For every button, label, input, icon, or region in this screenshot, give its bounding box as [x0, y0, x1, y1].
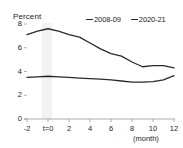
y-tick-label: 8 [10, 19, 22, 28]
x-tick-label: -2 [24, 124, 31, 133]
y-tick-label: 2 [10, 90, 22, 99]
y-tick-label: 0 [10, 114, 22, 123]
y-tick-label: 4 [10, 67, 22, 76]
x-tick-label: t=0 [43, 124, 54, 133]
x-tick-label: 2 [67, 124, 71, 133]
x-tick-label: 4 [88, 124, 92, 133]
x-axis-unit-label: (month) [133, 134, 159, 143]
x-tick-label: 12 [170, 124, 178, 133]
event-shaded-band [42, 23, 53, 119]
x-tick-label: 8 [130, 124, 134, 133]
percent-line-chart: Percent 2008-09 2020-21 02468 -2t=024681… [0, 0, 183, 148]
y-tick-label: 6 [10, 43, 22, 52]
x-tick-label: 10 [149, 124, 157, 133]
x-tick-label: 6 [109, 124, 113, 133]
